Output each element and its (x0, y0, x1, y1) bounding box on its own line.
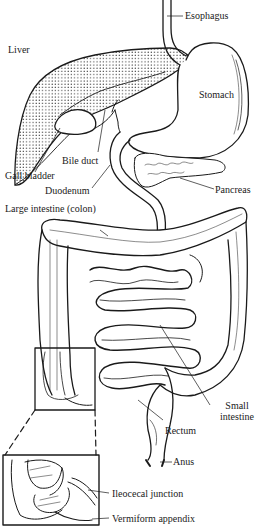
label-bile-duct: Bile duct (62, 155, 98, 166)
label-gall-bladder: Gall bladder (5, 170, 55, 181)
label-stomach: Stomach (199, 89, 234, 100)
digestive-system-diagram: Esophagus Liver Stomach Bile duct Gall b… (0, 0, 261, 530)
anatomy-illustration (0, 0, 261, 530)
label-vermiform-appendix: Vermiform appendix (112, 513, 195, 524)
label-small-intestine-line1: Small (213, 400, 261, 411)
label-rectum: Rectum (165, 425, 196, 436)
rectum (147, 368, 173, 460)
large-intestine-transverse (42, 208, 247, 256)
label-large-intestine: Large intestine (colon) (5, 203, 96, 214)
anus (146, 460, 164, 466)
magnified-inset (3, 455, 99, 525)
label-liver: Liver (8, 44, 30, 55)
label-ileocecal-junction: Ileocecal junction (112, 488, 183, 499)
label-esophagus: Esophagus (185, 10, 228, 21)
label-anus: Anus (173, 456, 194, 467)
pancreas (134, 153, 225, 187)
label-small-intestine: Small intestine (213, 400, 261, 422)
label-pancreas: Pancreas (215, 184, 251, 195)
label-small-intestine-line2: intestine (213, 411, 261, 422)
large-intestine-ascending (38, 230, 75, 395)
label-duodenum: Duodenum (45, 185, 89, 196)
small-intestine (90, 266, 200, 388)
